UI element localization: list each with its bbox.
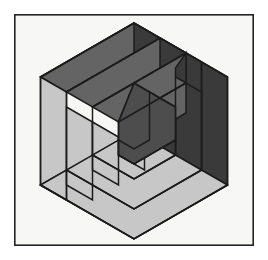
hexagon-spiral-artwork	[0, 0, 268, 260]
ring1-left-light	[67, 107, 93, 200]
artwork-root	[0, 0, 268, 260]
